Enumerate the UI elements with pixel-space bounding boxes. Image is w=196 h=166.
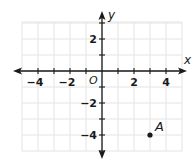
x-tick-label: 2 [130,76,138,89]
y-axis-label: y [107,8,116,22]
point-a [147,132,152,137]
x-axis-label: x [183,53,192,67]
y-tick-label: 2 [89,33,97,46]
y-tick-label: −4 [80,129,97,142]
y-tick-label: −2 [80,97,97,110]
coordinate-plane: −4−2242−2−4 x y O A [0,0,196,166]
x-tick-label: 4 [162,76,170,89]
x-tick-label: −4 [27,76,44,89]
point-label: A [154,119,164,134]
x-tick-label: −2 [59,76,76,89]
origin-label: O [89,74,98,87]
